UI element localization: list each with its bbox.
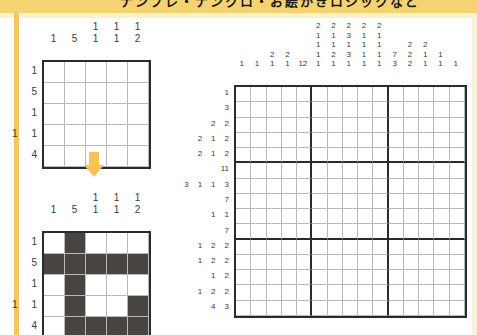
grid-cell[interactable] [373,118,388,133]
grid-cell[interactable] [434,102,449,117]
grid-cell[interactable] [389,240,404,255]
grid-cell[interactable] [282,255,297,270]
grid-cell[interactable] [343,133,358,148]
grid-cell[interactable] [297,224,312,239]
grid-cell[interactable] [358,148,373,163]
grid-cell[interactable] [236,194,251,209]
grid-cell[interactable] [450,240,465,255]
grid-cell[interactable] [434,209,449,224]
grid-cell[interactable] [389,118,404,133]
grid-cell[interactable] [328,270,343,285]
grid-cell[interactable] [328,255,343,270]
grid-cell[interactable] [128,233,149,254]
grid-cell[interactable] [65,62,86,83]
grid-cell[interactable] [450,209,465,224]
grid-cell[interactable] [373,163,388,178]
grid-cell[interactable] [419,133,434,148]
grid-cell[interactable] [267,118,282,133]
grid-cell[interactable] [86,233,107,254]
grid-cell[interactable] [65,104,86,125]
grid-cell[interactable] [312,179,327,194]
grid-cell[interactable] [343,270,358,285]
grid-cell[interactable] [107,254,128,275]
grid-cell[interactable] [282,270,297,285]
grid-cell[interactable] [328,224,343,239]
grid-cell[interactable] [65,296,86,317]
grid-cell[interactable] [44,275,65,296]
grid-cell[interactable] [312,102,327,117]
grid-cell[interactable] [373,285,388,300]
grid-cell[interactable] [373,270,388,285]
grid-cell[interactable] [65,317,86,335]
grid-cell[interactable] [107,275,128,296]
grid-cell[interactable] [251,194,266,209]
grid-cell[interactable] [251,163,266,178]
grid-cell[interactable] [44,233,65,254]
grid-cell[interactable] [44,125,65,146]
grid-cell[interactable] [44,146,65,167]
grid-cell[interactable] [236,118,251,133]
grid-cell[interactable] [358,102,373,117]
grid-cell[interactable] [236,301,251,316]
grid-cell[interactable] [434,163,449,178]
grid-cell[interactable] [282,209,297,224]
grid-cell[interactable] [389,163,404,178]
grid-cell[interactable] [434,224,449,239]
grid-cell[interactable] [389,179,404,194]
grid-cell[interactable] [389,102,404,117]
grid-cell[interactable] [373,194,388,209]
grid-cell[interactable] [282,179,297,194]
grid-cell[interactable] [251,148,266,163]
grid-cell[interactable] [328,209,343,224]
grid-cell[interactable] [328,133,343,148]
grid-cell[interactable] [343,194,358,209]
grid-cell[interactable] [267,87,282,102]
grid-cell[interactable] [419,255,434,270]
grid-cell[interactable] [434,148,449,163]
grid-cell[interactable] [297,148,312,163]
grid-cell[interactable] [65,254,86,275]
grid-cell[interactable] [86,296,107,317]
grid-cell[interactable] [251,102,266,117]
grid-cell[interactable] [450,87,465,102]
grid-cell[interactable] [107,317,128,335]
grid-cell[interactable] [86,83,107,104]
grid-cell[interactable] [107,125,128,146]
grid-cell[interactable] [236,209,251,224]
grid-cell[interactable] [282,148,297,163]
grid-cell[interactable] [282,194,297,209]
grid-cell[interactable] [450,148,465,163]
grid-cell[interactable] [65,83,86,104]
grid-cell[interactable] [404,87,419,102]
grid-cell[interactable] [419,102,434,117]
grid-cell[interactable] [389,148,404,163]
grid-cell[interactable] [251,224,266,239]
grid-cell[interactable] [450,118,465,133]
grid-cell[interactable] [267,163,282,178]
grid-cell[interactable] [312,285,327,300]
grid-cell[interactable] [128,296,149,317]
grid-cell[interactable] [404,270,419,285]
grid-cell[interactable] [128,275,149,296]
grid-cell[interactable] [312,301,327,316]
grid-cell[interactable] [267,148,282,163]
grid-cell[interactable] [251,179,266,194]
grid-cell[interactable] [343,224,358,239]
grid-cell[interactable] [312,209,327,224]
grid-cell[interactable] [312,133,327,148]
grid-cell[interactable] [107,104,128,125]
grid-cell[interactable] [128,254,149,275]
grid-cell[interactable] [282,301,297,316]
grid-cell[interactable] [107,296,128,317]
grid-cell[interactable] [282,163,297,178]
grid-cell[interactable] [328,179,343,194]
grid-cell[interactable] [358,240,373,255]
grid-cell[interactable] [343,163,358,178]
grid-cell[interactable] [358,224,373,239]
grid-cell[interactable] [128,62,149,83]
grid-cell[interactable] [419,194,434,209]
grid-cell[interactable] [389,270,404,285]
grid-cell[interactable] [267,240,282,255]
grid-cell[interactable] [312,240,327,255]
grid-cell[interactable] [328,163,343,178]
